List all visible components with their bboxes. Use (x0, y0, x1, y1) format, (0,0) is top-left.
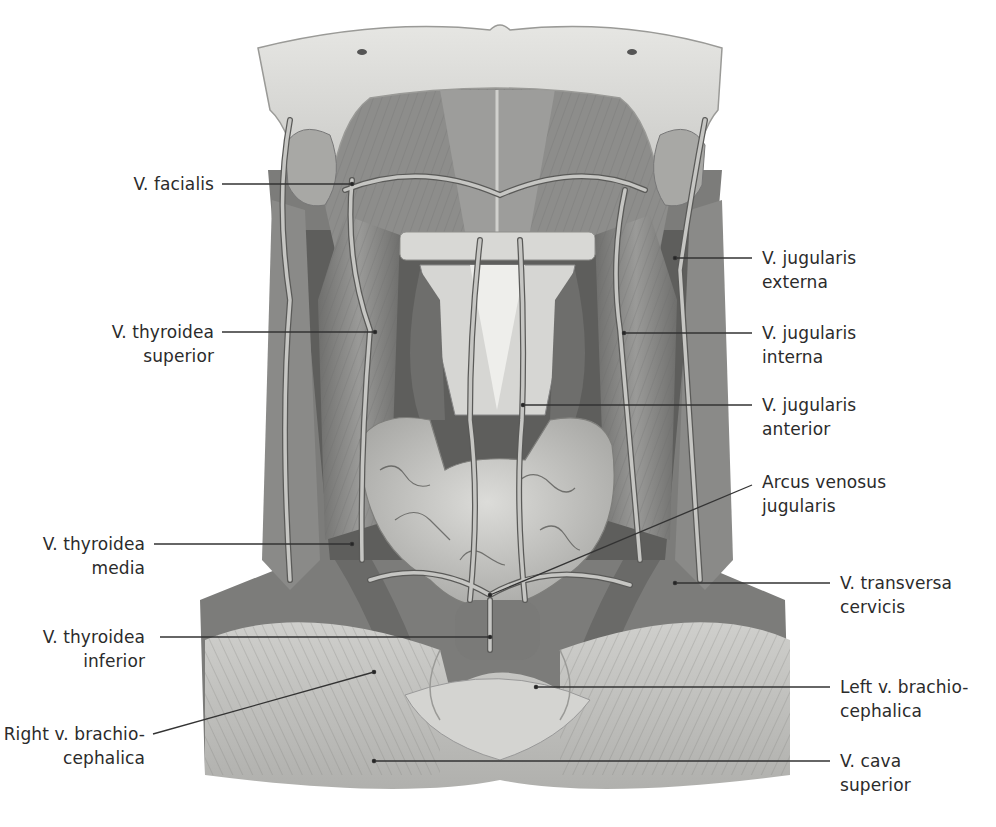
label-text-line2: superior (840, 773, 911, 797)
label-text-line2: inferior (43, 649, 145, 673)
label-text-line1: Arcus venosus (762, 470, 886, 494)
label-text-line1: V. thyroidea (43, 532, 145, 556)
label-text-line1: V. jugularis (762, 393, 856, 417)
label-text-line2: anterior (762, 417, 856, 441)
label-left-v-brachiocephalica: Left v. brachio- cephalica (840, 675, 968, 723)
hyoid-larynx (400, 232, 595, 420)
label-text-line2: cervicis (840, 595, 952, 619)
label-text-line1: V. cava (840, 749, 911, 773)
label-text-line2: externa (762, 270, 856, 294)
label-v-transversa-cervicis: V. transversa cervicis (840, 571, 952, 619)
label-v-thyroidea-superior: V. thyroidea superior (112, 320, 214, 368)
label-text-line2: interna (762, 345, 856, 369)
label-v-jugularis-interna: V. jugularis interna (762, 321, 856, 369)
label-v-cava-superior: V. cava superior (840, 749, 911, 797)
label-text-line1: V. jugularis (762, 321, 856, 345)
label-text-line1: V. transversa (840, 571, 952, 595)
label-text-line2: superior (112, 344, 214, 368)
label-text-line1: Right v. brachio- (4, 722, 145, 746)
label-v-facialis: V. facialis (133, 172, 214, 196)
label-v-jugularis-externa: V. jugularis externa (762, 246, 856, 294)
label-text-line2: cephalica (4, 746, 145, 770)
label-text-line1: V. thyroidea (43, 625, 145, 649)
label-text-line1: V. jugularis (762, 246, 856, 270)
label-text: V. facialis (133, 174, 214, 194)
label-v-jugularis-anterior: V. jugularis anterior (762, 393, 856, 441)
label-arcus-venosus-jugularis: Arcus venosus jugularis (762, 470, 886, 518)
label-text-line2: jugularis (762, 494, 886, 518)
label-text-line1: Left v. brachio- (840, 675, 968, 699)
label-right-v-brachiocephalica: Right v. brachio- cephalica (4, 722, 145, 770)
label-v-thyroidea-media: V. thyroidea media (43, 532, 145, 580)
label-text-line1: V. thyroidea (112, 320, 214, 344)
label-v-thyroidea-inferior: V. thyroidea inferior (43, 625, 145, 673)
label-text-line2: cephalica (840, 699, 968, 723)
label-text-line2: media (43, 556, 145, 580)
